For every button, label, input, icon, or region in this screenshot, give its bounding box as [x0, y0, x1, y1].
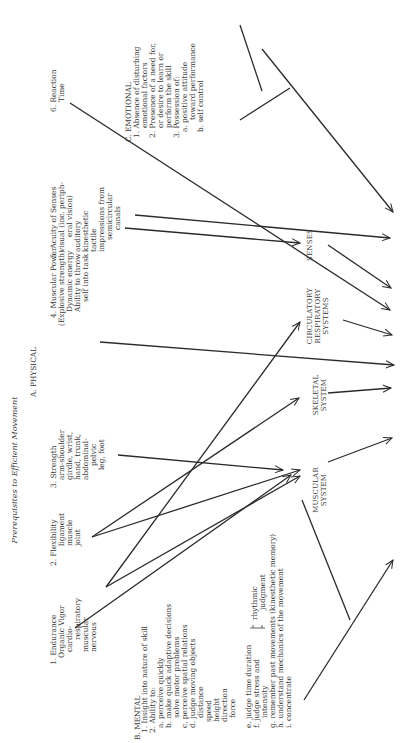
svg-text:canals: canals: [113, 206, 122, 230]
emotional-section: C. EMOTIONAL 1. Absence of disturbing em…: [124, 43, 205, 142]
svg-text:SYSTEM: SYSTEM: [320, 474, 328, 506]
svg-text:SYSTEM: SYSTEM: [320, 379, 328, 411]
svg-text:b. self control: b. self control: [196, 80, 205, 132]
svg-text:Prerequisites to Efficient Mov: Prerequisites to Efficient Movement: [10, 396, 19, 545]
physical-item-flexibility: 2. Flexibility ligament muscle joint: [49, 513, 82, 566]
svg-text:leg, foot: leg, foot: [97, 439, 106, 470]
svg-text:RESPIRATORY: RESPIRATORY: [314, 288, 322, 343]
connection-arrows: [70, 25, 394, 700]
system-label-circulatory: CIRCULATORY RESPIRATORY SYSTEMS: [306, 288, 330, 344]
diagram-canvas: Prerequisites to Efficient Movement A. P…: [0, 0, 410, 743]
physical-heading: A. PHYSICAL: [29, 347, 38, 398]
physical-item-acuity-of-senses: 5. Acuity of Senses visual (inc. periph-…: [49, 181, 122, 258]
mental-section: B. MENTAL 1. Insight into nature of skil…: [133, 534, 293, 740]
svg-text:judgment: judgment: [258, 574, 267, 611]
svg-text:self into task: self into task: [81, 253, 90, 302]
physical-item-reaction-time: 6. Reaction Time: [49, 69, 66, 112]
svg-text:SKELETAL: SKELETAL: [312, 375, 320, 416]
svg-text:force: force: [228, 699, 237, 718]
diagram-title: Prerequisites to Efficient Movement: [10, 396, 19, 545]
svg-text:A. PHYSICAL: A. PHYSICAL: [29, 347, 38, 398]
svg-text:SYSTEMS: SYSTEMS: [322, 297, 330, 334]
svg-text:joint: joint: [73, 529, 82, 547]
system-label-muscular: MUSCULAR SYSTEM: [312, 467, 328, 513]
system-label-skeletal: SKELETAL SYSTEM: [312, 375, 328, 416]
physical-item-endurance: 1. Endurance Organic Vigor cardio- respi…: [49, 597, 98, 665]
svg-text:CIRCULATORY: CIRCULATORY: [306, 288, 314, 344]
svg-text:nervous: nervous: [89, 622, 98, 652]
svg-text:Time: Time: [57, 83, 66, 102]
physical-item-strength: 3. Strength arm-shoulder girdle, wrist, …: [49, 429, 106, 488]
svg-text:i. concentrate: i. concentrate: [284, 676, 293, 728]
rhythmic-judgment-bracket: rhythmic judgment: [250, 574, 267, 628]
svg-text:MUSCULAR: MUSCULAR: [312, 467, 320, 513]
